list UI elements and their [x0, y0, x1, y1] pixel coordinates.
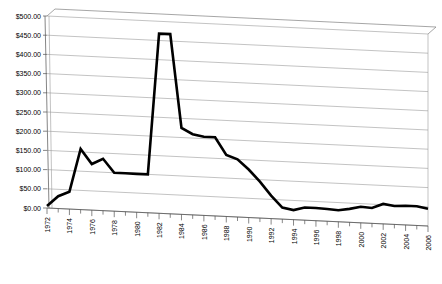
y-axis-tick-label: $400.00: [16, 51, 41, 58]
y-axis-tick-label: $250.00: [16, 109, 41, 116]
x-axis-tick-label: 2004: [403, 234, 410, 250]
x-axis-labels: 1972197419761978198019821984198619881990…: [44, 217, 432, 251]
grid-line-horizontal: [47, 131, 428, 149]
x-axis-tick-label: 2002: [380, 233, 387, 249]
y-axis-tick-label: $150.00: [16, 147, 41, 154]
x-axis-tick-label: 2000: [358, 232, 365, 248]
y-axis-labels: $0.00$50.00$100.00$150.00$200.00$250.00$…: [16, 13, 41, 212]
x-axis-tick-label: 1994: [291, 229, 298, 245]
grid-line-horizontal: [47, 93, 428, 111]
tick-marks: [43, 16, 428, 232]
grid-line-horizontal: [47, 170, 428, 188]
grid-lines: [47, 16, 428, 226]
y-axis-tick-label: $200.00: [16, 128, 41, 135]
x-axis-tick-label: 1972: [44, 217, 51, 233]
x-axis-tick-label: 1986: [201, 224, 208, 240]
depth-connector-left: [47, 9, 55, 16]
x-axis-tick-label: 1978: [111, 220, 118, 236]
y-axis-tick-label: $350.00: [16, 70, 41, 77]
y-axis-tick-label: $450.00: [16, 32, 41, 39]
data-line-series: [47, 34, 428, 211]
grid-line-horizontal: [47, 112, 428, 130]
grid-line-horizontal: [47, 35, 428, 53]
y-axis-tick-label: $500.00: [16, 13, 41, 20]
back-wall-top-edge: [55, 9, 436, 27]
y-axis-tick-label: $100.00: [16, 166, 41, 173]
line-chart: $0.00$50.00$100.00$150.00$200.00$250.00$…: [0, 0, 442, 284]
grid-line-horizontal: [47, 16, 428, 34]
y-axis-tick-label: $300.00: [16, 89, 41, 96]
x-axis-tick-label: 1992: [268, 227, 275, 243]
grid-line-horizontal: [47, 54, 428, 72]
x-axis-tick-label: 2006: [425, 235, 432, 251]
grid-line-horizontal: [47, 74, 428, 92]
x-axis-tick-label: 1990: [246, 226, 253, 242]
x-axis-tick-label: 1974: [66, 218, 73, 234]
data-series: [47, 34, 428, 211]
y-axis-tick-label: $0.00: [23, 205, 41, 212]
axes: [45, 9, 436, 226]
x-axis-tick-label: 1976: [89, 219, 96, 235]
x-axis-tick-label: 1984: [178, 223, 185, 239]
x-axis-tick-label: 1998: [335, 231, 342, 247]
chart-container: $0.00$50.00$100.00$150.00$200.00$250.00$…: [0, 0, 442, 284]
grid-line-horizontal: [47, 189, 428, 207]
x-axis-tick-label: 1980: [134, 221, 141, 237]
y-axis-tick-label: $50.00: [20, 185, 42, 192]
x-axis-tick-label: 1982: [156, 222, 163, 238]
x-axis-tick-label: 1988: [223, 225, 230, 241]
x-axis-tick-label: 1996: [313, 230, 320, 246]
depth-connector-right: [428, 27, 436, 34]
